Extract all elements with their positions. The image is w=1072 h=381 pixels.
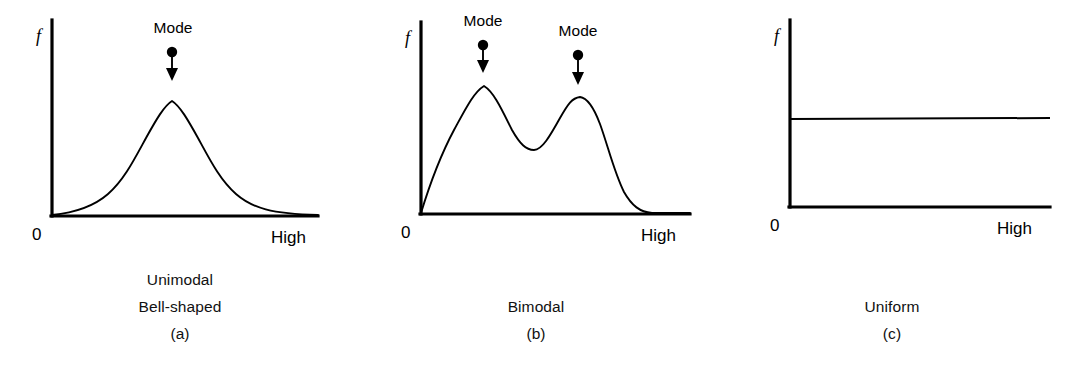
mode-pointer-dot-1 xyxy=(167,47,177,57)
mode-label-2: Mode xyxy=(559,22,598,39)
panel-c-plot: f 0 High xyxy=(712,0,1072,260)
mode-label-1: Mode xyxy=(464,12,503,29)
mode-pointer-dot-1 xyxy=(478,40,488,50)
panel-c-caption: Uniform (c) xyxy=(712,293,1072,347)
caption-line: (b) xyxy=(360,320,712,347)
caption-line: (c) xyxy=(712,320,1072,347)
mode-arrow-head-2 xyxy=(572,72,584,85)
y-axis-label: f xyxy=(405,28,413,48)
bimodal-curve xyxy=(421,86,690,213)
x-axis-end-label: High xyxy=(997,219,1032,238)
bell-curve xyxy=(52,101,318,215)
y-axis-label: f xyxy=(36,26,44,46)
uniform-distribution-line xyxy=(790,118,1050,119)
x-axis-end-label: High xyxy=(271,228,306,247)
x-axis-end-label: High xyxy=(641,226,676,245)
mode-pointer-dot-2 xyxy=(573,50,583,60)
mode-label-1: Mode xyxy=(154,19,193,36)
x-axis-origin-label: 0 xyxy=(401,223,410,242)
panel-b-plot: f Mode Mode 0 High xyxy=(360,0,712,260)
mode-arrow-head-1 xyxy=(166,68,178,81)
caption-line: Uniform xyxy=(712,293,1072,320)
mode-arrow-head-1 xyxy=(477,60,489,73)
panel-b-caption: Bimodal (b) xyxy=(360,293,712,347)
panel-a-caption: Unimodal Bell-shaped (a) xyxy=(0,266,360,347)
panel-a-plot: f Mode 0 High xyxy=(0,0,360,260)
x-axis-origin-label: 0 xyxy=(770,216,779,235)
caption-line: Bimodal xyxy=(360,293,712,320)
panel-unimodal: f Mode 0 High Unimodal Bell-shaped (a) xyxy=(0,0,360,381)
panel-uniform: f 0 High Uniform (c) xyxy=(712,0,1072,381)
distribution-shapes-figure: f Mode 0 High Unimodal Bell-shaped (a) f… xyxy=(0,0,1072,381)
panel-bimodal: f Mode Mode 0 High Bimodal (b) xyxy=(360,0,712,381)
y-axis-label: f xyxy=(774,26,782,46)
caption-line: Unimodal xyxy=(0,266,360,293)
caption-line: (a) xyxy=(0,320,360,347)
x-axis-origin-label: 0 xyxy=(32,225,41,244)
caption-line: Bell-shaped xyxy=(0,293,360,320)
